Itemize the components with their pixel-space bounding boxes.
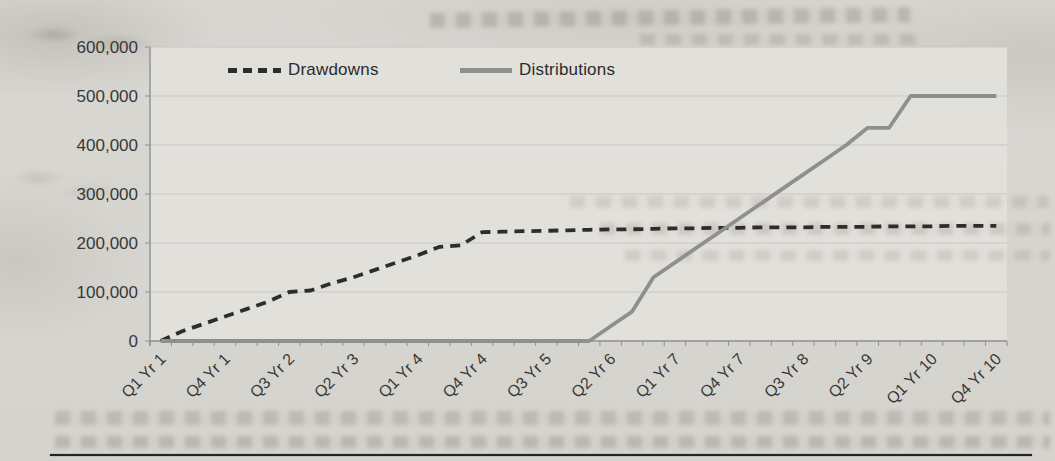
x-tick-label: Q3 Yr 5 [504, 350, 555, 401]
x-tick-label: Q1 Yr 10 [883, 350, 940, 407]
x-tick-label: Q1 Yr 4 [375, 350, 426, 401]
x-tick-label: Q4 Yr 10 [947, 350, 1004, 407]
x-tick-label: Q4 Yr 1 [182, 350, 233, 401]
drawdowns-dashed-line-sample-icon [228, 68, 281, 73]
distributions-solid-line-sample-icon [460, 68, 512, 73]
x-tick-label: Q1 Yr 1 [118, 350, 169, 401]
x-tick-label: Q3 Yr 8 [761, 350, 812, 401]
x-tick-label: Q4 Yr 7 [697, 350, 748, 401]
y-tick-label: 0 [129, 332, 138, 351]
x-tick-label: Q3 Yr 2 [247, 350, 298, 401]
distributions-line [161, 96, 997, 341]
x-tick-label: Q2 Yr 6 [568, 350, 619, 401]
legend-item-distributions: Distributions [460, 61, 615, 79]
x-tick-label: Q2 Yr 9 [825, 350, 876, 401]
y-tick-label: 500,000 [77, 87, 138, 106]
page-divider-rule [50, 454, 1032, 456]
x-tick-label: Q4 Yr 4 [439, 350, 490, 401]
legend-label-drawdowns: Drawdowns [288, 60, 379, 80]
scanned-book-page: 0100,000200,000300,000400,000500,000600,… [0, 0, 1055, 461]
y-tick-label: 400,000 [77, 136, 138, 155]
legend-item-drawdowns: Drawdowns [228, 61, 379, 79]
y-tick-label: 200,000 [77, 234, 138, 253]
y-tick-label: 100,000 [77, 283, 138, 302]
x-tick-label: Q1 Yr 7 [632, 350, 683, 401]
y-tick-label: 300,000 [77, 185, 138, 204]
legend-label-distributions: Distributions [519, 60, 615, 80]
x-tick-label: Q2 Yr 3 [311, 350, 362, 401]
y-tick-label: 600,000 [77, 38, 138, 57]
